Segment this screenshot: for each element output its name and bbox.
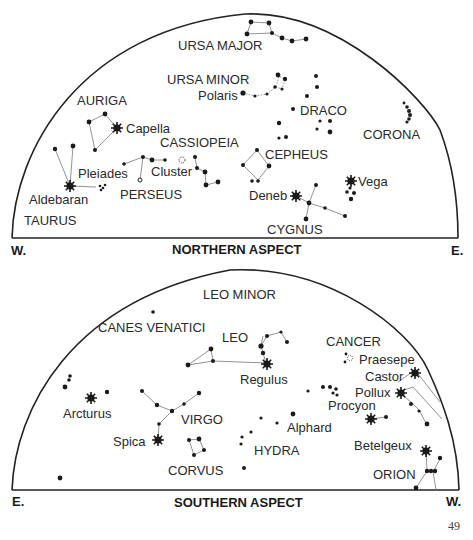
east-label-south: E.	[12, 494, 24, 509]
southern-aspect-chart: LEO MINOR CANES VENATICI LEO Regulus CAN…	[12, 270, 461, 510]
label-canes-venatici: CANES VENATICI	[98, 320, 205, 335]
label-vega: Vega	[358, 174, 388, 189]
star-map-figure: URSA MAJOR URSA MINOR Polaris	[0, 0, 473, 540]
label-ursa-major: URSA MAJOR	[178, 38, 263, 53]
label-orion: ORION	[373, 467, 416, 482]
label-hydra: HYDRA	[254, 443, 300, 458]
label-spica: Spica	[113, 434, 146, 449]
label-leo: LEO	[222, 330, 248, 345]
southern-aspect-title: SOUTHERN ASPECT	[174, 495, 303, 510]
west-label-north: W.	[11, 243, 26, 258]
label-cluster: Cluster	[151, 164, 193, 179]
label-draco: DRACO	[300, 103, 347, 118]
west-label-south: W.	[446, 494, 461, 509]
praesepe-cluster	[344, 353, 353, 364]
bootes-stars	[58, 374, 110, 480]
corona-stars	[403, 102, 412, 124]
label-arcturus: Arcturus	[63, 406, 112, 421]
label-auriga: AURIGA	[77, 93, 127, 108]
label-taurus: TAURUS	[24, 213, 77, 228]
label-virgo: VIRGO	[181, 412, 223, 427]
label-corona: CORONA	[363, 127, 420, 142]
label-corvus: CORVUS	[168, 463, 224, 478]
label-capella: Capella	[126, 121, 171, 136]
northern-aspect-chart: URSA MAJOR URSA MINOR Polaris	[11, 14, 463, 258]
label-cepheus: CEPHEUS	[265, 147, 328, 162]
label-pleiades: Pleiades	[78, 166, 128, 181]
canes-venatici-star	[151, 310, 155, 314]
corvus-stars	[187, 437, 206, 457]
label-polaris: Polaris	[198, 88, 238, 103]
east-label-north: E.	[451, 243, 463, 258]
label-cygnus: CYGNUS	[267, 222, 323, 237]
hydra-head-stars	[306, 385, 338, 397]
page-number: 49	[448, 519, 460, 533]
label-cassiopeia: CASSIOPEIA	[160, 135, 239, 150]
canis-minor-stars	[365, 413, 388, 425]
label-perseus: PERSEUS	[120, 187, 182, 202]
cygnus-stars	[290, 183, 347, 221]
northern-aspect-title: NORTHERN ASPECT	[172, 242, 302, 257]
lyra-stars	[345, 175, 357, 201]
auriga-stars	[87, 112, 123, 152]
label-alphard: Alphard	[287, 420, 332, 435]
label-betelgeux: Betelgeux	[354, 438, 412, 453]
label-leo-minor: LEO MINOR	[203, 287, 276, 302]
label-ursa-minor: URSA MINOR	[167, 72, 249, 87]
orion-stars	[414, 445, 443, 490]
label-procyon: Procyon	[328, 398, 376, 413]
label-aldebaran: Aldebaran	[29, 192, 88, 207]
label-cancer: CANCER	[326, 334, 381, 349]
label-praesepe: Praesepe	[359, 352, 415, 367]
label-deneb: Deneb	[249, 188, 287, 203]
label-castor: Castor	[365, 369, 404, 384]
label-regulus: Regulus	[240, 372, 288, 387]
